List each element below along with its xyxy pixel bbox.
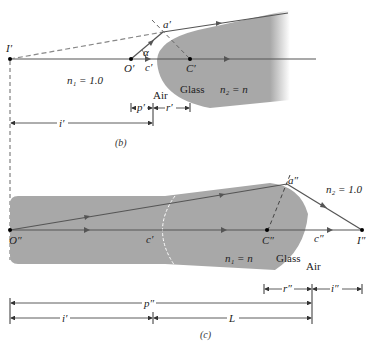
label-p-prime: p′ [136,101,146,113]
label-c1-c: c′ [146,233,154,245]
label-O-prime: O′ [124,62,135,74]
label-p-double: p″ [143,297,155,309]
point-C-prime [188,57,192,61]
label-r-prime: r′ [166,101,173,113]
label-c-double: c″ [314,232,324,244]
label-I-prime: I′ [5,42,13,54]
label-I-double: I″ [356,234,366,246]
point-O-double [8,228,12,232]
point-I-double [360,228,364,232]
label-alpha: α [143,46,149,58]
caption-c: (c) [200,329,212,341]
label-a-prime: a′ [163,18,172,30]
optics-diagram: I′ O′ a′ c′ C′ α n₁ = 1.0 Glass n₂ = n A… [0,0,369,344]
label-i-prime-b: i′ [59,117,65,129]
label-L: L [228,312,235,324]
label-n1-b: n₁ = 1.0 [67,74,103,86]
label-O-double: O″ [9,234,22,246]
exit-arrow-c [320,202,327,208]
axis-arrow-c3 [327,227,333,233]
label-C-double: C″ [262,234,274,246]
panel-c: O″ a″ c′ C″ c″ I″ n₁ = n Glass Air n₂ = … [8,174,366,341]
label-r-double: r″ [283,282,292,294]
label-glass-b: Glass [180,83,204,95]
incident-arrow-b [148,40,154,46]
label-air-b: Air [153,89,168,101]
label-n2-c: n₂ = 1.0 [326,183,362,195]
label-glass-c: Glass [276,252,300,264]
virtual-ray-b [10,32,163,59]
label-n1-c: n₁ = n [225,252,253,264]
point-I-prime [8,57,12,61]
glass-rod-c [10,183,308,270]
label-air-c: Air [306,260,321,272]
point-O-prime [129,57,133,61]
label-a-double: a″ [288,174,299,186]
caption-b: (b) [115,137,127,149]
label-c-prime: c′ [145,61,153,73]
label-C-prime: C′ [186,62,196,74]
label-i-double: i″ [331,282,339,294]
label-n2-b: n₂ = n [220,83,248,95]
point-C-double [265,228,269,232]
label-i-prime-c: i′ [62,312,68,324]
